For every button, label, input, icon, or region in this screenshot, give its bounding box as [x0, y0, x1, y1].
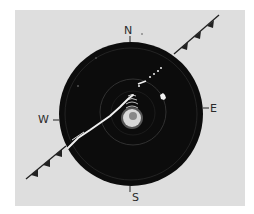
- cold-front-ne: [174, 15, 219, 54]
- compass-south-label: S: [132, 191, 139, 204]
- compass-east-label: E: [210, 102, 217, 115]
- compass-west-label: W: [38, 113, 49, 126]
- compass-north-label: N: [124, 24, 132, 37]
- cold-front-sw: [26, 146, 66, 179]
